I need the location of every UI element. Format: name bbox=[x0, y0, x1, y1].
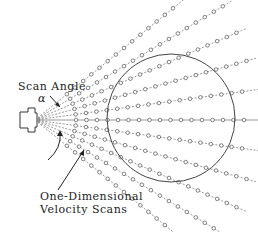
sample-point-marker bbox=[206, 44, 210, 48]
sample-point-marker bbox=[221, 4, 225, 8]
sample-point-marker bbox=[109, 151, 113, 155]
sample-point-marker bbox=[74, 124, 78, 128]
sample-point-marker bbox=[131, 178, 135, 182]
sample-point-marker bbox=[163, 13, 167, 17]
sample-point-marker bbox=[86, 150, 90, 154]
sample-point-marker bbox=[114, 53, 118, 57]
angle-arc-icon bbox=[48, 130, 63, 160]
sample-point-marker bbox=[158, 194, 162, 198]
sample-point-marker bbox=[245, 59, 249, 63]
velocity-scans-label-line2: Velocity Scans bbox=[40, 203, 127, 216]
sample-point-marker bbox=[214, 169, 218, 173]
sample-point-marker bbox=[140, 183, 144, 187]
sample-point-marker bbox=[137, 118, 141, 122]
sample-point-marker bbox=[68, 139, 72, 143]
sample-point-marker bbox=[86, 86, 90, 90]
scan-angle-arrow-icon bbox=[50, 96, 60, 107]
sample-point-marker bbox=[73, 129, 77, 133]
sample-point-marker bbox=[164, 155, 168, 159]
sample-point-marker bbox=[245, 177, 249, 181]
sample-point-marker bbox=[240, 147, 244, 151]
sample-point-marker bbox=[178, 98, 182, 102]
sample-point-marker bbox=[71, 134, 75, 138]
sample-point-marker bbox=[171, 6, 175, 10]
sample-point-marker bbox=[84, 111, 88, 115]
sample-point-marker bbox=[203, 15, 207, 19]
sample-point-marker bbox=[158, 64, 162, 68]
sample-point-marker bbox=[84, 125, 88, 129]
sample-point-marker bbox=[204, 70, 208, 74]
sample-point-marker bbox=[71, 102, 75, 106]
sample-point-marker bbox=[74, 118, 78, 122]
sample-point-marker bbox=[106, 59, 110, 63]
sample-point-marker bbox=[77, 145, 81, 149]
sample-point-marker bbox=[93, 102, 97, 106]
sample-point-marker bbox=[90, 164, 94, 168]
sample-point-marker bbox=[209, 142, 213, 146]
sample-point-marker bbox=[114, 184, 118, 188]
sample-point-marker bbox=[136, 104, 140, 108]
sample-point-marker bbox=[177, 56, 181, 60]
sample-point-marker bbox=[194, 163, 198, 167]
sample-point-marker bbox=[204, 166, 208, 170]
sample-point-marker bbox=[83, 132, 87, 136]
sample-point-marker bbox=[93, 135, 97, 139]
sample-point-marker bbox=[185, 210, 189, 214]
sample-point-marker bbox=[199, 96, 203, 100]
sample-point-marker bbox=[184, 160, 188, 164]
sample-point-marker bbox=[176, 205, 180, 209]
sample-point-marker bbox=[196, 48, 200, 52]
sample-point-marker bbox=[235, 62, 239, 66]
sample-point-marker bbox=[178, 138, 182, 142]
sample-point-marker bbox=[199, 141, 203, 145]
sample-point-marker bbox=[95, 127, 99, 131]
sample-point-marker bbox=[167, 37, 171, 41]
sample-point-marker bbox=[186, 52, 190, 56]
sample-point-marker bbox=[126, 106, 130, 110]
scan-angle-label: Scan Angle bbox=[18, 80, 86, 93]
sample-point-marker bbox=[221, 118, 225, 122]
sample-point-marker bbox=[95, 81, 99, 85]
sample-point-marker bbox=[95, 118, 99, 122]
sample-point-marker bbox=[215, 197, 219, 201]
sample-point-marker bbox=[155, 20, 159, 24]
sample-point-marker bbox=[185, 26, 189, 30]
sample-point-marker bbox=[122, 64, 126, 68]
sample-point-marker bbox=[174, 157, 178, 161]
velocity-scans-label-line1: One-Dimensional bbox=[40, 190, 143, 203]
sample-point-marker bbox=[95, 156, 99, 160]
sample-point-marker bbox=[235, 205, 239, 209]
sample-point-marker bbox=[188, 97, 192, 101]
sample-point-marker bbox=[176, 32, 180, 36]
sample-point-marker bbox=[154, 152, 158, 156]
transducer-icon bbox=[20, 108, 37, 132]
sample-point-marker bbox=[113, 167, 117, 171]
sample-point-marker bbox=[219, 144, 223, 148]
sample-point-marker bbox=[139, 33, 143, 37]
sample-point-marker bbox=[119, 81, 123, 85]
sample-point-marker bbox=[140, 53, 144, 57]
sample-point-marker bbox=[106, 177, 110, 181]
sample-point-marker bbox=[219, 93, 223, 97]
sample-point-marker bbox=[103, 99, 107, 103]
sample-point-marker bbox=[122, 172, 126, 176]
sample-point-marker bbox=[98, 66, 102, 70]
sample-point-marker bbox=[149, 48, 153, 52]
sample-point-marker bbox=[167, 100, 171, 104]
sample-point-marker bbox=[90, 73, 94, 77]
sample-point-marker bbox=[113, 70, 117, 74]
sample-point-marker bbox=[230, 145, 234, 149]
sample-point-marker bbox=[136, 132, 140, 136]
sample-point-marker bbox=[188, 139, 192, 143]
sample-point-marker bbox=[109, 85, 113, 89]
sample-point-marker bbox=[155, 217, 159, 221]
sample-point-marker bbox=[80, 98, 84, 102]
sample-point-marker bbox=[147, 134, 151, 138]
sample-point-marker bbox=[104, 161, 108, 165]
sample-point-marker bbox=[80, 139, 84, 143]
sample-point-marker bbox=[167, 176, 171, 180]
sample-point-marker bbox=[194, 21, 198, 25]
sample-point-marker bbox=[179, 118, 183, 122]
sample-point-marker bbox=[143, 87, 147, 91]
sample-point-marker bbox=[158, 172, 162, 176]
